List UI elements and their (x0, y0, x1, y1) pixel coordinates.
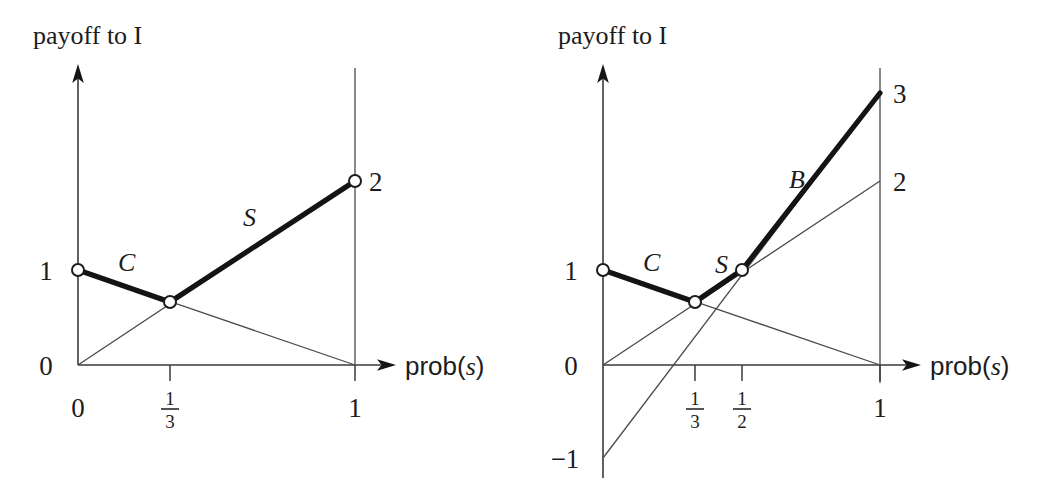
right-ytick-label-1: 1 (564, 256, 578, 286)
left-x-axis-label-suffix: ) (476, 351, 485, 381)
left-panel: payoff to I prob(s) 1 0 0 1 1 3 2 C S (33, 21, 485, 432)
right-endpoint-label-2: 2 (893, 167, 907, 197)
left-frac-numerator: 1 (165, 388, 175, 409)
left-node-1-2 (349, 175, 361, 187)
right-x-axis-label-prefix: prob( (930, 351, 991, 381)
right-frac1-numerator: 1 (690, 388, 700, 409)
right-node-one-third (689, 296, 701, 308)
left-upper-envelope (78, 181, 355, 302)
left-xtick-label-1: 1 (348, 393, 362, 423)
left-node-one-third (164, 296, 176, 308)
right-ytick-label-minus1: −1 (551, 444, 580, 474)
left-curve-label-S: S (243, 203, 256, 232)
left-xtick-label-0: 0 (71, 393, 85, 423)
right-x-axis-label-suffix: ) (1001, 351, 1010, 381)
right-frac2-numerator: 1 (737, 388, 747, 409)
left-curve-label-C: C (118, 248, 136, 277)
right-node-one-half (736, 264, 748, 276)
right-frac1-denominator: 3 (690, 411, 700, 432)
left-y-axis-label: payoff to I (33, 21, 142, 50)
left-xtick-label-one-third: 1 3 (161, 388, 179, 432)
right-x-axis-label: prob(s) (930, 351, 1010, 381)
left-x-axis-label-italic: s (466, 352, 476, 381)
right-frac2-denominator: 2 (737, 411, 747, 432)
right-ytick-label-0: 0 (564, 351, 578, 381)
left-endpoint-label-2: 2 (369, 167, 383, 197)
right-xtick-label-1: 1 (873, 393, 887, 423)
left-ytick-label-0: 0 (39, 351, 53, 381)
left-x-axis-label: prob(s) (405, 351, 485, 381)
right-panel: payoff to I prob(s) 1 0 −1 1 1 3 1 2 3 2… (551, 21, 1010, 478)
payoff-diagram-svg: payoff to I prob(s) 1 0 0 1 1 3 2 C S (0, 0, 1049, 499)
right-curve-label-C: C (643, 248, 661, 277)
right-endpoint-label-3: 3 (893, 79, 907, 109)
left-frac-denominator: 3 (165, 411, 175, 432)
figure-root: payoff to I prob(s) 1 0 0 1 1 3 2 C S (0, 0, 1049, 499)
right-xtick-label-one-third: 1 3 (686, 388, 704, 432)
right-curve-label-S: S (715, 250, 728, 279)
right-xtick-label-one-half: 1 2 (733, 388, 751, 432)
left-node-0-1 (72, 264, 84, 276)
left-ytick-label-1: 1 (39, 256, 53, 286)
right-x-axis-label-italic: s (991, 352, 1001, 381)
right-node-0-1 (597, 264, 609, 276)
right-y-axis-label: payoff to I (558, 21, 667, 50)
right-curve-label-B: B (789, 165, 805, 194)
left-x-axis-label-prefix: prob( (405, 351, 466, 381)
